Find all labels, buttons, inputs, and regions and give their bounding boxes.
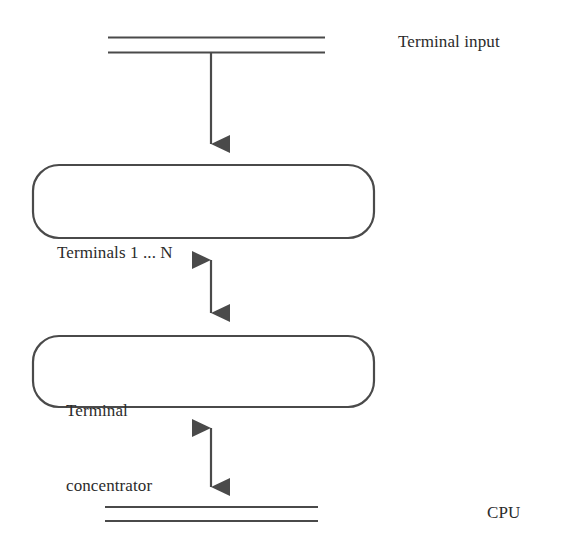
cpu-label: CPU: [487, 500, 520, 525]
box-terminals-label: Terminals 1 ... N: [57, 190, 173, 315]
terminal-input-bus: [108, 38, 325, 53]
terminal-input-label: Terminal input: [398, 29, 500, 54]
box-terminal-concentrator-label: Terminal concentrator: [66, 348, 152, 548]
box-terminal-concentrator-label-line-2: concentrator: [66, 473, 152, 498]
box-terminal-concentrator-label-line-1: Terminal: [66, 398, 152, 423]
diagram-canvas: Terminal input CPU Terminals 1 ... N Ter…: [0, 0, 567, 550]
box-terminals-label-line-1: Terminals 1 ... N: [57, 240, 173, 265]
